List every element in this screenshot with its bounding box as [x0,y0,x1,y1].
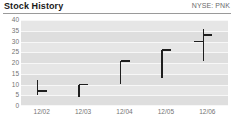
y-axis-tick-label: 25 [1,49,19,55]
y-axis-tick-label: 20 [1,60,19,66]
gridline [21,52,228,53]
hlc-bar-close-tick [162,49,171,51]
hlc-bar-close-tick [79,84,88,86]
hlc-bar-stem [37,80,39,95]
x-axis-tick-label: 12/05 [151,108,181,115]
hlc-bar-open-tick [194,41,203,43]
gridline [21,95,228,96]
y-axis-tick-label: 15 [1,71,19,77]
widget-header: Stock History NYSE: PNK [0,0,234,15]
y-axis-tick-label: 5 [1,92,19,98]
gridline [21,63,228,64]
x-axis-tick-label: 12/04 [110,108,140,115]
hlc-bar-close-tick [38,90,47,92]
gridline [21,85,228,86]
y-axis-tick-label: 30 [1,39,19,45]
header-divider [3,13,231,14]
chart-container: 0510152025303540 12/0212/0312/0412/0512/… [0,16,234,122]
page-title: Stock History [4,1,63,11]
plot-area [21,20,228,106]
hlc-bar-close-tick [121,60,130,62]
x-axis-tick-label: 12/02 [27,108,57,115]
gridline [21,20,228,21]
x-axis: 12/0212/0312/0412/0512/06 [21,108,228,120]
x-axis-tick-label: 12/06 [192,108,222,115]
y-axis: 0510152025303540 [0,20,19,106]
hlc-bar-stem [78,85,80,98]
x-axis-tick-label: 12/03 [68,108,98,115]
hlc-bar-close-tick [203,34,212,36]
gridline [21,105,228,106]
ticker-symbol: NYSE: PNK [192,2,230,9]
hlc-bar-stem [161,50,163,78]
y-axis-tick-label: 10 [1,82,19,88]
gridline [21,31,228,32]
stock-history-widget: Stock History NYSE: PNK 0510152025303540… [0,0,234,122]
hlc-bar-stem [120,61,122,85]
y-axis-tick-label: 40 [1,17,19,23]
y-axis-tick-label: 0 [1,103,19,109]
gridline [21,74,228,75]
y-axis-tick-label: 35 [1,28,19,34]
grid-band [21,74,228,85]
